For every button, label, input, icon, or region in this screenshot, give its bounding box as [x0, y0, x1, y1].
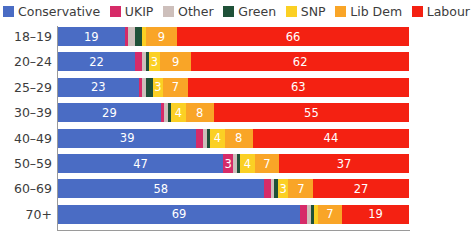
bar-segment-green[interactable]	[135, 27, 142, 46]
bar-segment-green[interactable]	[146, 78, 153, 97]
bar-row: 18–1919966	[0, 24, 473, 49]
legend-item-libdem[interactable]: Lib Dem	[335, 5, 402, 18]
bar-value-label: 19	[368, 207, 383, 221]
x-axis-line	[57, 230, 410, 231]
stacked-bar: 4734737	[58, 154, 409, 173]
legend-label-libdem: Lib Dem	[350, 5, 402, 18]
bar-value-label: 44	[324, 131, 339, 145]
bar-value-label: 7	[263, 157, 270, 171]
bar-segment-lib-dem[interactable]: 9	[160, 52, 192, 71]
bar-segment-labour[interactable]: 44	[253, 129, 409, 148]
bar-segment-ukip[interactable]	[300, 205, 307, 224]
bar-segment-labour[interactable]: 62	[191, 52, 409, 71]
bar-value-label: 19	[84, 30, 99, 44]
bar-segment-snp[interactable]: 3	[149, 52, 160, 71]
stacked-bar: 583727	[58, 179, 409, 198]
bar-value-label: 47	[133, 157, 148, 171]
legend-item-green[interactable]: Green	[223, 5, 276, 18]
legend-item-labour[interactable]: Labour	[412, 5, 470, 18]
stacked-bar: 394844	[58, 129, 409, 148]
stacked-bar: 223962	[58, 52, 409, 71]
bar-segment-lib-dem[interactable]: 9	[146, 27, 178, 46]
row-label-2: 20–24	[0, 49, 52, 74]
bar-row: 60–69583727	[0, 176, 473, 201]
bar-segment-lib-dem[interactable]: 8	[186, 103, 214, 122]
bar-segment-ukip[interactable]: 3	[223, 154, 234, 173]
bar-value-label: 4	[175, 106, 182, 120]
bar-segment-conservative[interactable]: 22	[58, 52, 135, 71]
row-label-1: 18–19	[0, 24, 52, 49]
bar-segment-ukip[interactable]	[264, 179, 271, 198]
legend-label-conservative: Conservative	[18, 5, 100, 18]
bar-value-label: 23	[91, 80, 106, 94]
bar-row: 40–49394844	[0, 126, 473, 151]
bar-segment-labour[interactable]: 55	[214, 103, 409, 122]
bar-value-label: 7	[172, 80, 179, 94]
bar-value-label: 9	[158, 30, 165, 44]
bar-segment-labour[interactable]: 27	[313, 179, 409, 198]
bar-segment-lib-dem[interactable]: 7	[255, 154, 280, 173]
bar-segment-conservative[interactable]: 47	[58, 154, 223, 173]
bar-segment-conservative[interactable]: 23	[58, 78, 139, 97]
legend-label-snp: SNP	[301, 5, 326, 18]
bar-segment-ukip[interactable]	[135, 52, 142, 71]
bar-segment-lib-dem[interactable]: 8	[225, 129, 253, 148]
bar-row: 30–39294855	[0, 100, 473, 125]
row-label-3: 25–29	[0, 75, 52, 100]
bar-segment-ukip[interactable]	[196, 129, 203, 148]
bar-value-label: 3	[154, 80, 161, 94]
row-label-8: 70+	[0, 202, 52, 227]
bar-value-label: 7	[326, 207, 333, 221]
plot-area: 18–191996620–2422396225–2923376330–39294…	[0, 24, 473, 236]
bar-value-label: 63	[291, 80, 306, 94]
bar-value-label: 22	[89, 55, 104, 69]
bar-value-label: 3	[279, 182, 286, 196]
row-label-6: 50–59	[0, 151, 52, 176]
bar-row: 25–29233763	[0, 75, 473, 100]
legend-label-other: Other	[178, 5, 214, 18]
bar-value-label: 3	[225, 157, 232, 171]
legend-label-green: Green	[238, 5, 276, 18]
bar-value-label: 37	[337, 157, 352, 171]
legend-swatch-snp	[286, 6, 297, 17]
legend-item-other[interactable]: Other	[163, 5, 214, 18]
bar-segment-lib-dem[interactable]: 7	[163, 78, 188, 97]
bar-value-label: 8	[196, 106, 203, 120]
legend-label-ukip: UKIP	[125, 5, 154, 18]
stacked-bar: 294855	[58, 103, 409, 122]
bar-segment-conservative[interactable]: 58	[58, 179, 264, 198]
bar-value-label: 69	[172, 207, 187, 221]
bar-row: 50–594734737	[0, 151, 473, 176]
bar-segment-snp[interactable]: 4	[171, 103, 185, 122]
legend-item-ukip[interactable]: UKIP	[110, 5, 154, 18]
bar-segment-snp[interactable]: 3	[278, 179, 289, 198]
legend-item-snp[interactable]: SNP	[286, 5, 326, 18]
legend-item-conservative[interactable]: Conservative	[3, 5, 100, 18]
bar-segment-labour[interactable]: 63	[188, 78, 409, 97]
bar-segment-snp[interactable]: 3	[153, 78, 164, 97]
bar-value-label: 58	[153, 182, 168, 196]
bar-value-label: 29	[102, 106, 117, 120]
bar-segment-other[interactable]	[128, 27, 135, 46]
bar-row: 70+69719	[0, 202, 473, 227]
bar-segment-snp[interactable]: 4	[210, 129, 224, 148]
bar-segment-conservative[interactable]: 69	[58, 205, 300, 224]
bar-segment-conservative[interactable]: 19	[58, 27, 125, 46]
row-label-5: 40–49	[0, 126, 52, 151]
bar-segment-conservative[interactable]: 29	[58, 103, 161, 122]
bar-row: 20–24223962	[0, 49, 473, 74]
bar-segment-labour[interactable]: 66	[177, 27, 409, 46]
stacked-bar: 19966	[58, 27, 409, 46]
bar-segment-conservative[interactable]: 39	[58, 129, 196, 148]
bar-value-label: 4	[244, 157, 251, 171]
stacked-bar: 233763	[58, 78, 409, 97]
bar-value-label: 9	[172, 55, 179, 69]
bar-segment-labour[interactable]: 19	[342, 205, 409, 224]
bar-segment-lib-dem[interactable]: 7	[318, 205, 343, 224]
legend-swatch-green	[223, 6, 234, 17]
legend-swatch-ukip	[110, 6, 121, 17]
bar-segment-snp[interactable]: 4	[240, 154, 254, 173]
stacked-bar-chart: ConservativeUKIPOtherGreenSNPLib DemLabo…	[0, 0, 473, 240]
bar-segment-labour[interactable]: 37	[279, 154, 409, 173]
bar-segment-lib-dem[interactable]: 7	[288, 179, 313, 198]
